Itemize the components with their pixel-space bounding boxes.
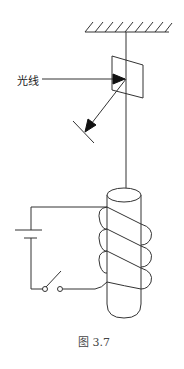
ceiling-support: [85, 22, 172, 32]
incident-ray: [42, 74, 125, 84]
light-ray-label: 光线: [17, 72, 39, 88]
battery: [15, 230, 42, 238]
figure-caption: 图 3.7: [78, 333, 110, 349]
reflected-ray: [85, 79, 126, 132]
circuit-wires: [31, 207, 107, 289]
arrowhead-icon: [85, 119, 96, 132]
switch: [43, 271, 63, 292]
diagram-canvas: [0, 0, 184, 369]
